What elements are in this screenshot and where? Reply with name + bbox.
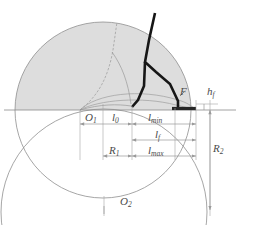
label-l0: l0 xyxy=(112,112,119,125)
figure-canvas: O1 l0 lmin lf R1 lmax R2 hf F O2 xyxy=(0,0,255,225)
diagram-svg xyxy=(0,0,255,225)
label-r1: R1 xyxy=(109,145,119,158)
label-lf: lf xyxy=(155,129,160,142)
label-r2: R2 xyxy=(213,143,223,156)
label-hf: hf xyxy=(207,86,215,99)
label-lmin: lmin xyxy=(148,112,162,125)
label-lmax: lmax xyxy=(148,145,164,158)
label-o1: O1 xyxy=(85,112,97,125)
label-point-f: F xyxy=(180,86,187,97)
label-o2: O2 xyxy=(120,196,132,209)
